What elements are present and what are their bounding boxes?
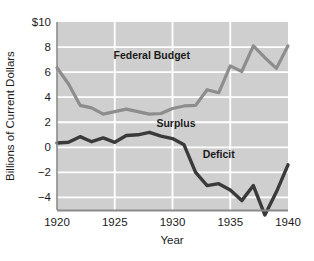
y-axis-title: Billions of Current Dollars [4,51,16,181]
y-tick-label: $10 [32,16,51,28]
y-tick-label: 4 [45,91,52,103]
y-tick-label: 6 [45,66,51,78]
annotation-label: Deficit [203,148,236,160]
y-tick-label: 8 [45,41,51,53]
y-tick-label: −2 [38,166,51,178]
annotation-label: Federal Budget [113,49,190,61]
x-tick-label: 1935 [217,216,243,228]
x-tick-label: 1940 [275,216,301,228]
annotation-label: Surplus [156,117,195,129]
x-tick-label: 1930 [160,216,186,228]
federal-budget-chart: $1086420−2−4 19201925193019351940 Federa… [0,0,314,261]
x-axis-title: Year [160,234,183,246]
x-tick-label: 1925 [102,216,128,228]
y-tick-label: 0 [45,141,51,153]
y-tick-label: 2 [45,116,51,128]
y-tick-label: −4 [38,191,52,203]
x-tick-label: 1920 [44,216,70,228]
